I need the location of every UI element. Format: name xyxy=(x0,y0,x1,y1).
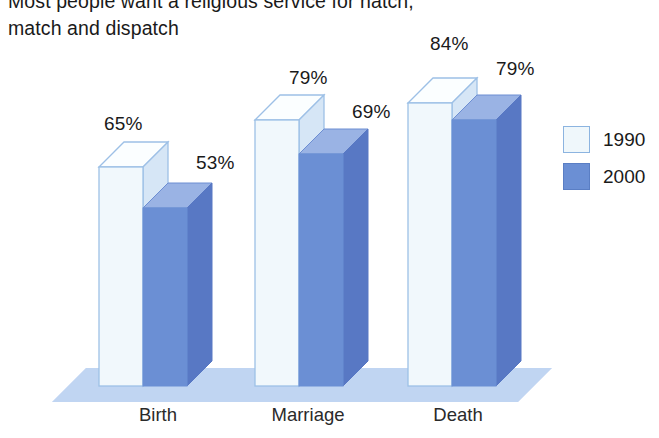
data-label-marriage-1990: 79% xyxy=(289,67,328,89)
bar-birth-2000 xyxy=(143,208,187,386)
legend-label-1990: 1990 xyxy=(603,126,645,153)
data-label-birth-1990: 65% xyxy=(104,113,143,135)
chart-figure: Most people want a religious service for… xyxy=(0,0,659,438)
data-label-birth-2000: 53% xyxy=(196,152,235,174)
plot-area: 65% 53% 79% 69% xyxy=(0,0,659,438)
bar-marriage-2000 xyxy=(299,154,343,386)
category-label-birth: Birth xyxy=(108,404,208,426)
legend-label-2000: 2000 xyxy=(603,163,645,190)
category-label-marriage: Marriage xyxy=(253,404,363,426)
legend-swatch-2000-icon xyxy=(563,163,590,190)
bar-marriage-1990 xyxy=(255,120,299,386)
bar-death-1990 xyxy=(408,103,452,386)
data-label-death-2000: 79% xyxy=(496,58,535,80)
category-label-death: Death xyxy=(408,404,508,426)
legend-swatch-1990-icon xyxy=(563,126,590,153)
data-label-death-1990: 84% xyxy=(430,33,469,55)
bar-death-2000 xyxy=(452,120,496,386)
data-label-marriage-2000: 69% xyxy=(352,101,391,123)
bar-birth-1990 xyxy=(99,167,143,386)
